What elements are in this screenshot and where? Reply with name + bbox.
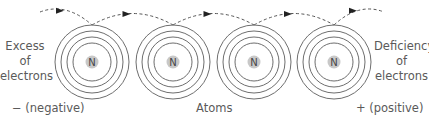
arrowhead-icon bbox=[56, 8, 64, 14]
arrowhead-icon bbox=[123, 11, 131, 17]
excess-electrons-label: Excess of electrons bbox=[0, 39, 50, 84]
atom-3: N bbox=[217, 25, 291, 99]
arrowhead-icon bbox=[349, 8, 357, 14]
nucleus-label: N bbox=[250, 57, 257, 68]
atoms-group: NNNN bbox=[55, 25, 371, 99]
left-label-line-1: Excess bbox=[0, 39, 50, 54]
nucleus-label: N bbox=[88, 57, 95, 68]
electron-flow-arrows bbox=[40, 8, 384, 25]
nucleus-label: N bbox=[330, 57, 337, 68]
arrowhead-icon bbox=[204, 11, 212, 17]
electron-path bbox=[40, 9, 92, 25]
atom-4: N bbox=[297, 25, 371, 99]
right-label-line-2: of bbox=[374, 54, 429, 69]
electron-path bbox=[254, 14, 334, 26]
electron-path bbox=[92, 14, 173, 26]
right-label-line-3: electrons bbox=[374, 69, 429, 84]
atom-2: N bbox=[136, 25, 210, 99]
left-label-line-2: of bbox=[0, 54, 50, 69]
arrowhead-icon bbox=[284, 11, 292, 17]
electron-path bbox=[334, 9, 384, 25]
right-label-line-1: Deficiency bbox=[374, 39, 429, 54]
atom-1: N bbox=[55, 25, 129, 99]
electron-path bbox=[173, 14, 254, 26]
negative-label: − (negative) bbox=[12, 101, 85, 116]
deficiency-electrons-label: Deficiency of electrons bbox=[374, 39, 429, 84]
atoms-label: Atoms bbox=[196, 101, 232, 116]
left-label-line-3: electrons bbox=[0, 69, 50, 84]
nucleus-label: N bbox=[169, 57, 176, 68]
positive-label: + (positive) bbox=[356, 101, 423, 116]
